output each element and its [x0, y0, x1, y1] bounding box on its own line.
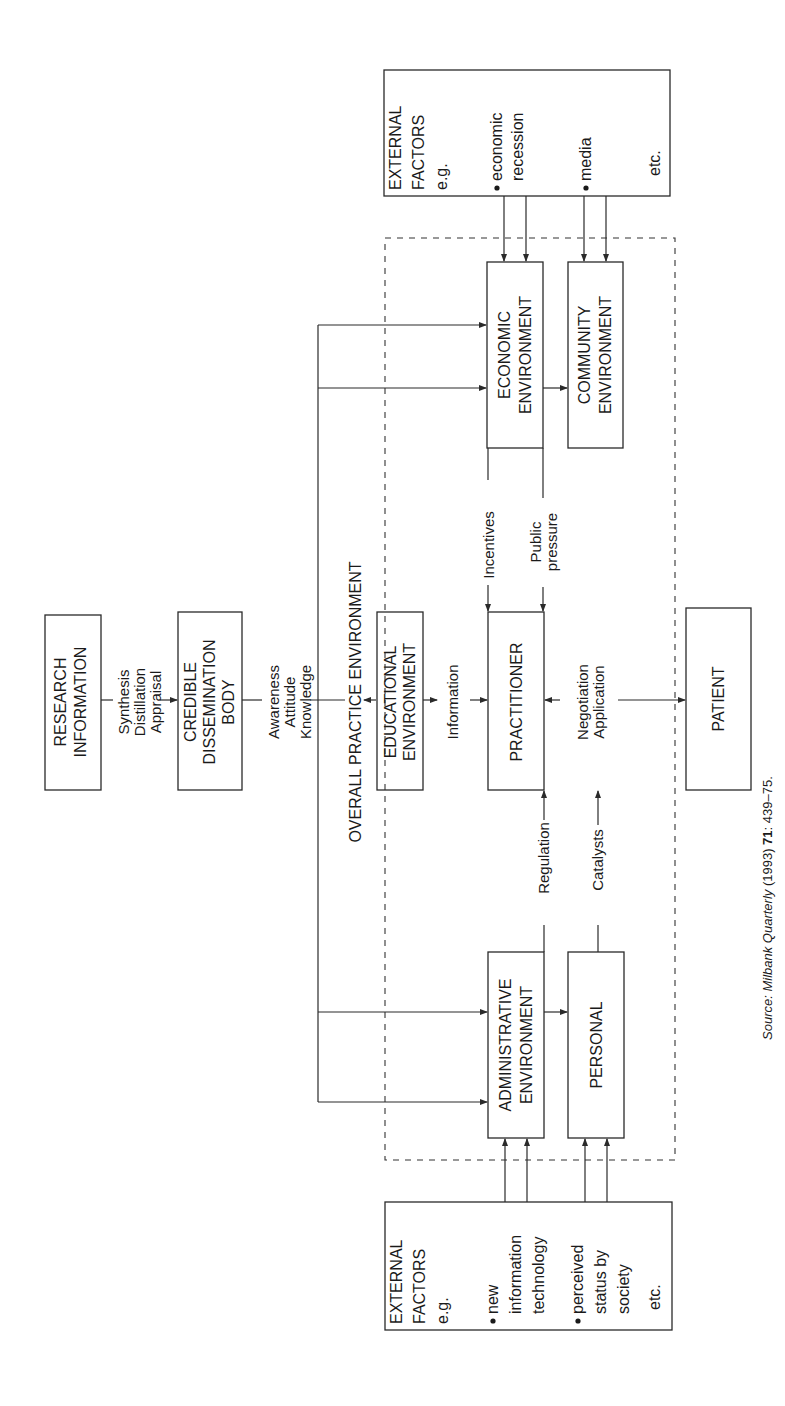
node-label: ENVIRONMENT — [517, 296, 534, 414]
edge-label: Attitude — [281, 677, 298, 728]
edge-label: Catalysts — [589, 829, 606, 891]
community-environment-node: COMMUNITY ENVIRONMENT — [568, 262, 623, 448]
source-citation: Source: Milbank Quarterly (1993) 71: 439… — [760, 776, 775, 1040]
personal-node: PERSONAL — [568, 952, 624, 1138]
practitioner-node: PRACTITIONER — [488, 612, 544, 790]
node-label: INFORMATION — [72, 647, 89, 758]
edge-label: Negotiation — [574, 664, 591, 740]
educational-environment-node: EDUCATIONAL ENVIRONMENT — [377, 612, 423, 790]
node-label: EXTERNAL — [388, 1239, 405, 1324]
edge-label: Information — [444, 664, 461, 739]
edge-label: Application — [590, 665, 607, 738]
bullet-text: economic — [488, 113, 505, 181]
edge-label: Synthesis — [115, 669, 132, 734]
node-label: RESEARCH — [52, 658, 69, 747]
bullet-text: recession — [509, 113, 526, 181]
research-information-node: RESEARCH INFORMATION — [45, 615, 101, 790]
external-factors-top-node: EXTERNAL FACTORS e.g. economic recession… — [384, 70, 670, 196]
bullet-text: new — [484, 1284, 501, 1314]
credible-dissemination-body-node: CREDIBLE DISSEMINATION BODY — [178, 612, 242, 790]
etc-text: etc. — [646, 150, 663, 176]
edge-label: Incentives — [480, 511, 497, 579]
node-label: COMMUNITY — [576, 305, 593, 404]
economic-environment-node: ECONOMIC ENVIRONMENT — [487, 262, 543, 448]
node-label: e.g. — [434, 1297, 451, 1324]
node-label: EXTERNAL — [387, 105, 404, 190]
bullet-icon — [575, 1318, 580, 1323]
node-label: FACTORS — [411, 1249, 428, 1324]
node-label: DISSEMINATION — [201, 639, 218, 764]
node-label: CREDIBLE — [182, 662, 199, 742]
edge-label: Appraisal — [147, 671, 164, 734]
bullet-icon — [494, 185, 499, 190]
node-label: ENVIRONMENT — [518, 986, 535, 1104]
bullet-icon — [583, 185, 588, 190]
node-label: ADMINISTRATIVE — [497, 978, 514, 1111]
edge-label: Knowledge — [297, 665, 314, 739]
etc-text: etc. — [646, 1284, 663, 1310]
node-label: ENVIRONMENT — [597, 296, 614, 414]
container-label: OVERALL PRACTICE ENVIRONMENT — [347, 561, 364, 842]
node-label: ECONOMIC — [496, 311, 513, 399]
edge-label: Distillation — [131, 668, 148, 736]
diagram-canvas: RESEARCH INFORMATION CREDIBLE DISSEMINAT… — [0, 0, 785, 1406]
edge-label: Awareness — [265, 665, 282, 739]
bullet-text: technology — [530, 1237, 547, 1314]
node-label: BODY — [220, 679, 237, 725]
node-label: PRACTITIONER — [508, 642, 525, 761]
external-factors-bottom-node: EXTERNAL FACTORS e.g. new information te… — [385, 1202, 672, 1330]
node-label: EDUCATIONAL — [382, 646, 399, 759]
node-label: FACTORS — [410, 115, 427, 190]
node-label: PERSONAL — [588, 1001, 605, 1088]
node-label: PATIENT — [710, 666, 727, 731]
bullet-icon — [490, 1318, 495, 1323]
bullet-text: media — [577, 137, 594, 181]
patient-node: PATIENT — [686, 608, 751, 790]
bullet-text: society — [615, 1264, 632, 1314]
node-label: ENVIRONMENT — [401, 643, 418, 761]
node-label: e.g. — [433, 163, 450, 190]
bullet-text: perceived — [569, 1245, 586, 1314]
edge-label: Regulation — [535, 822, 552, 894]
edge-label: pressure — [543, 513, 560, 571]
edge-label: Public — [527, 521, 544, 562]
bullet-text: information — [507, 1235, 524, 1314]
administrative-environment-node: ADMINISTRATIVE ENVIRONMENT — [488, 952, 544, 1138]
bullet-text: status by — [592, 1250, 609, 1314]
